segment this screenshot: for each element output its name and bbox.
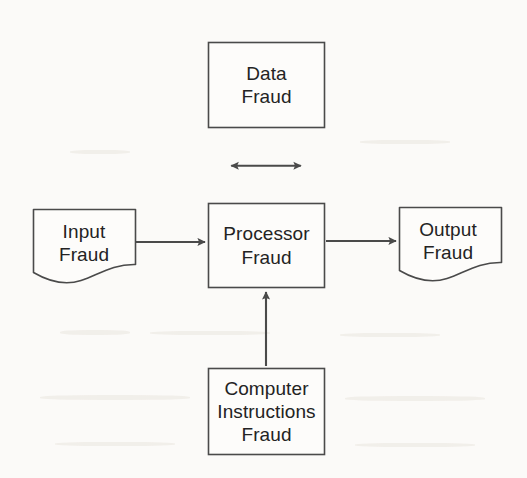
fraud-flow-diagram: Data Fraud Input Fraud Processor Fraud O… — [0, 0, 527, 478]
node-computer-instructions-fraud — [209, 369, 325, 455]
node-data-fraud — [209, 43, 325, 128]
diagram-canvas — [0, 0, 527, 478]
node-output-fraud — [400, 208, 502, 281]
node-processor-fraud — [209, 204, 325, 288]
node-input-fraud — [34, 210, 136, 283]
